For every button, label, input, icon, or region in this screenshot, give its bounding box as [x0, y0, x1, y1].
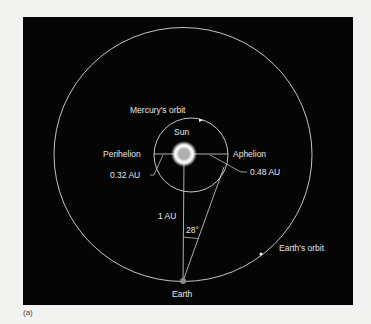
earth-orbit-label: Earth's orbit [279, 244, 324, 253]
sun-earth-line [183, 162, 184, 281]
figure-caption: (a) [23, 308, 33, 317]
mercury-orbit-label: Mercury's orbit [130, 106, 185, 115]
aphelion-distance-label: 0.48 AU [250, 168, 280, 177]
earth-label: Earth [172, 290, 192, 299]
angle-arc [183, 237, 198, 239]
orbit-diagram [23, 17, 353, 305]
earth-mercury-tangent-line [183, 167, 224, 281]
diagram-panel [23, 17, 353, 305]
earth-orbit-arrow-icon [259, 252, 262, 255]
perihelion-distance-label: 0.32 AU [110, 171, 140, 180]
earth-icon [180, 278, 186, 284]
sun-label: Sun [174, 128, 189, 137]
perihelion-distance-leader [150, 155, 163, 175]
sun-core [178, 148, 190, 160]
earth-sun-distance-label: 1 AU [158, 212, 176, 221]
angle-label: 28° [186, 226, 199, 235]
perihelion-label: Perihelion [103, 150, 141, 159]
aphelion-label: Aphelion [233, 150, 266, 159]
